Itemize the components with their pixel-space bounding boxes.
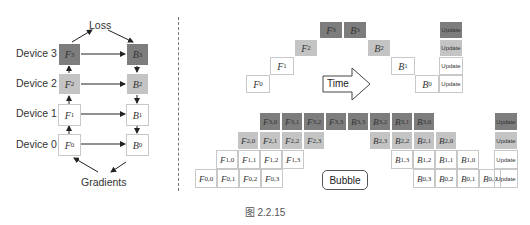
time-label: Time [323,78,353,89]
block-subscript: 0 [139,141,143,149]
block-subscript: 0,3 [270,175,279,183]
forward-block-device-3: F3 [58,43,81,66]
micro-batch-backward-block: B1,0 [457,150,479,169]
pipeline-block-b3: B3 [343,21,367,39]
block-subscript: 1,3 [400,156,409,164]
block-subscript: 2,1 [268,137,277,145]
backward-block-device-2: B2 [126,73,149,95]
block-subscript: 3,2 [378,118,387,126]
block-subscript: 2,2 [400,137,409,145]
block-subscript: 2,2 [290,137,299,145]
backward-block-device-3: B3 [126,43,149,66]
backward-block-device-1: B1 [126,104,149,126]
block-subscript: 2,0 [246,137,255,145]
block-subscript: 1,0 [225,156,234,164]
update-block: Update [439,39,463,57]
micro-batch-forward-block: F3,0 [259,112,281,131]
micro-batch-backward-block: B1,3 [391,150,413,169]
block-subscript: 1,1 [247,156,256,164]
update-block: Update [494,169,518,188]
block-subscript: 0,1 [226,175,235,183]
block-subscript: 3 [71,51,75,59]
backward-block-device-0: B0 [126,134,149,156]
block-subscript: 3,0 [422,118,431,126]
block-subscript: 3,0 [268,118,277,126]
block-subscript: 1 [283,62,287,70]
block-subscript: 1 [139,111,143,119]
micro-batch-backward-block: B3,1 [391,112,413,131]
micro-batch-forward-block: F1,2 [260,150,282,169]
block-subscript: 3 [356,26,360,34]
block-subscript: 0 [428,80,432,88]
micro-batch-forward-block: F2,0 [237,131,259,150]
update-block: Update [439,57,463,75]
micro-batch-forward-block: F3,1 [281,112,303,131]
block-subscript: 0,2 [444,175,453,183]
dashed-divider [178,17,179,191]
block-subscript: 2,0 [444,137,453,145]
device-2-label: Device 2 [16,77,57,89]
loss-label: Loss [89,19,111,31]
micro-batch-backward-block: B1,2 [413,150,435,169]
micro-batch-forward-block: F0,0 [195,169,217,188]
block-subscript: 1 [71,111,75,119]
micro-batch-backward-block: B3,3 [347,112,369,131]
block-subscript: 2 [380,44,384,52]
block-subscript: 0,3 [422,175,431,183]
block-subscript: 2 [307,44,311,52]
micro-batch-forward-block: F0,1 [217,169,239,188]
device-3-label: Device 3 [16,47,57,59]
update-block: Update [494,150,518,169]
micro-batch-backward-block: B2,1 [413,131,435,150]
micro-batch-backward-block: B0,2 [435,169,457,188]
block-subscript: 3 [139,51,143,59]
bubble-label-box: Bubble [322,170,368,190]
block-subscript: 2 [71,80,75,88]
micro-batch-backward-block: B2,3 [369,131,391,150]
block-subscript: 3 [332,26,336,34]
update-block: Update [439,75,463,93]
micro-batch-forward-block: F3,3 [325,112,347,131]
figure-caption: 图 2.2.15 [0,204,530,219]
micro-batch-backward-block: B2,2 [391,131,413,150]
pipeline-block-b1: B1 [391,57,415,75]
micro-batch-forward-block: F0,2 [239,169,261,188]
block-subscript: 1,2 [422,156,431,164]
micro-batch-forward-block: F2,3 [303,131,325,150]
block-subscript: 1 [404,62,408,70]
block-subscript: 2 [139,80,143,88]
micro-batch-backward-block: B3,2 [369,112,391,131]
micro-batch-forward-block: F1,0 [216,150,238,169]
block-subscript: 0,0 [204,175,213,183]
block-subscript: 3,3 [334,118,343,126]
micro-batch-backward-block: B1,1 [435,150,457,169]
block-subscript: 1,2 [269,156,278,164]
block-subscript: 3,1 [400,118,409,126]
micro-batch-backward-block: B0,3 [413,169,435,188]
forward-block-device-1: F1 [58,104,81,126]
block-subscript: 0,2 [248,175,257,183]
micro-batch-forward-block: F1,1 [238,150,260,169]
bubble-label: Bubble [329,175,360,186]
pipeline-block-f0: F0 [246,75,270,93]
gradients-label: Gradients [81,176,127,188]
micro-batch-forward-block: F2,2 [281,131,303,150]
block-subscript: 3,1 [290,118,299,126]
micro-batch-forward-block: F1,3 [282,150,304,169]
block-subscript: 2,3 [312,137,321,145]
update-block: Update [439,21,463,39]
micro-batch-backward-block: B0,1 [457,169,479,188]
block-subscript: 1,3 [291,156,300,164]
device-1-label: Device 1 [16,107,57,119]
device-0-label: Device 0 [16,138,57,150]
micro-batch-forward-block: F2,1 [259,131,281,150]
block-subscript: 0 [259,80,263,88]
micro-batch-backward-block: B2,0 [435,131,457,150]
block-subscript: 1,0 [466,156,475,164]
forward-block-device-0: F0 [58,134,81,156]
update-block: Update [494,112,518,131]
pipeline-block-f1: F1 [270,57,294,75]
block-subscript: 2,3 [378,137,387,145]
block-subscript: 3,2 [312,118,321,126]
forward-block-device-2: F2 [58,73,81,95]
